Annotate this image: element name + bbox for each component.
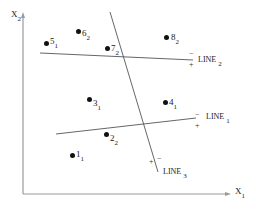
diagram-canvas xyxy=(0,0,256,212)
point-4-id: 4 xyxy=(169,97,174,107)
line-2-name: LINE xyxy=(198,55,216,64)
point-7-id: 7 xyxy=(111,43,116,53)
point-8-id: 8 xyxy=(171,32,176,42)
line-3-label: LINE3 xyxy=(163,168,187,176)
point-8-dot xyxy=(164,35,169,40)
point-7-dot xyxy=(105,46,110,51)
line-1-label: LINE1 xyxy=(206,113,230,121)
point-8-label: 82 xyxy=(171,33,179,42)
point-5-dot xyxy=(44,41,49,46)
point-6-class: 2 xyxy=(87,34,91,42)
point-3-id: 3 xyxy=(93,98,98,108)
line-1-sub: 1 xyxy=(226,117,230,125)
line-2-minus-sign: − xyxy=(189,50,194,58)
point-7-class: 2 xyxy=(116,49,120,57)
point-4-label: 41 xyxy=(169,98,177,107)
point-2-id: 2 xyxy=(110,133,115,143)
point-4-dot xyxy=(163,100,168,105)
line-3-plus-sign: + xyxy=(149,158,154,166)
y-axis-label-main: X xyxy=(11,9,18,19)
point-4-class: 1 xyxy=(174,103,178,111)
line-1-name: LINE xyxy=(206,112,224,121)
point-1-dot xyxy=(70,153,75,158)
point-3-class: 1 xyxy=(98,104,102,112)
x-axis-label-main: X xyxy=(235,186,242,196)
line-2-sub: 2 xyxy=(218,60,222,68)
line-1-minus-sign: − xyxy=(195,111,200,119)
point-6-dot xyxy=(76,29,81,34)
point-3-dot xyxy=(87,97,92,102)
point-3-label: 31 xyxy=(93,99,101,108)
point-1-id: 1 xyxy=(76,149,81,159)
line-3-minus-sign: − xyxy=(157,155,162,163)
x-axis-arrow-icon xyxy=(225,192,231,196)
point-1-class: 1 xyxy=(81,155,85,163)
point-2-class: 2 xyxy=(115,139,119,147)
x-axis-label-sub: 1 xyxy=(242,192,246,200)
x-axis-label: X1 xyxy=(235,187,245,196)
y-axis-label-sub: 2 xyxy=(18,15,22,23)
point-2-label: 22 xyxy=(110,134,118,143)
line-2-plus-sign: + xyxy=(189,61,194,69)
point-6-id: 6 xyxy=(82,28,87,38)
line-3 xyxy=(110,12,158,172)
point-8-class: 2 xyxy=(176,38,180,46)
point-5-class: 1 xyxy=(55,42,59,50)
y-axis-label: X2 xyxy=(11,10,21,19)
line-3-sub: 3 xyxy=(183,172,187,180)
y-axis-arrow-icon xyxy=(21,12,25,18)
point-5-label: 51 xyxy=(50,37,58,46)
line-3-name: LINE xyxy=(163,167,181,176)
point-7-label: 72 xyxy=(111,44,119,53)
line-1 xyxy=(56,118,196,134)
point-1-label: 11 xyxy=(76,150,84,159)
point-6-label: 62 xyxy=(82,29,90,38)
point-5-id: 5 xyxy=(50,36,55,46)
point-2-dot xyxy=(104,132,109,137)
line-2-label: LINE2 xyxy=(198,56,222,64)
line-1-plus-sign: + xyxy=(195,122,200,130)
